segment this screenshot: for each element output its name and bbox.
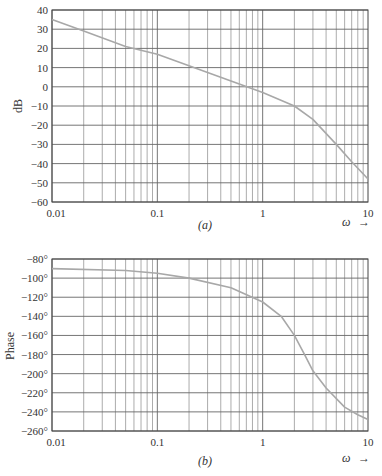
magnitude-ylabel: dB — [11, 99, 25, 113]
y-tick-label: 40 — [37, 4, 49, 16]
x-tick-label: 1 — [260, 207, 266, 219]
y-tick-label: −50 — [31, 177, 49, 189]
magnitude-plot: 403020100−10−20−30−40−50−600.010.1110 — [31, 4, 374, 219]
phase-plot: −80°−100°−120°−140°−160°−180°−200°−220°−… — [21, 253, 374, 448]
data-curve — [52, 20, 368, 179]
y-tick-label: −80° — [26, 253, 48, 265]
panel-label-a: (a) — [198, 218, 212, 232]
x-tick-label: 0.01 — [46, 436, 65, 448]
y-tick-label: −30 — [31, 138, 49, 150]
panel-label-b: (b) — [198, 454, 212, 468]
y-tick-label: −220° — [21, 387, 48, 399]
phase-ylabel: Phase — [3, 332, 17, 360]
y-tick-label: −10 — [31, 100, 49, 112]
data-curve — [52, 269, 368, 420]
y-tick-label: −160° — [21, 329, 48, 341]
bode-plot: 403020100−10−20−30−40−50−600.010.1110 −8… — [0, 0, 382, 476]
y-tick-label: −20 — [31, 119, 49, 131]
omega-label-a: ω — [342, 215, 350, 229]
arrow-icon: → — [358, 215, 370, 229]
y-tick-label: −240° — [21, 406, 48, 418]
y-tick-label: 30 — [37, 23, 49, 35]
y-tick-label: −40 — [31, 158, 49, 170]
x-tick-label: 1 — [260, 436, 266, 448]
y-tick-label: −200° — [21, 368, 48, 380]
y-tick-label: −120° — [21, 291, 48, 303]
x-tick-label: 10 — [363, 436, 375, 448]
y-tick-label: 20 — [37, 42, 49, 54]
x-tick-label: 0.1 — [150, 207, 164, 219]
y-tick-label: −260° — [21, 425, 48, 437]
y-tick-label: −180° — [21, 349, 48, 361]
y-tick-label: −140° — [21, 310, 48, 322]
arrow-icon: → — [358, 451, 370, 465]
y-tick-label: −100° — [21, 272, 48, 284]
y-tick-label: 10 — [37, 62, 49, 74]
omega-label-b: ω — [342, 451, 350, 465]
x-tick-label: 0.01 — [46, 207, 65, 219]
y-tick-label: 0 — [43, 81, 49, 93]
x-tick-label: 0.1 — [150, 436, 164, 448]
plot-frame — [52, 259, 368, 431]
